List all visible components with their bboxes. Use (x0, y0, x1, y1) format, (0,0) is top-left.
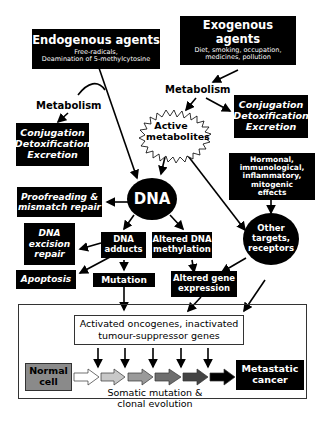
progression-arrow-6 (210, 369, 235, 385)
somatic-mutation-label: Somatic mutation & clonal evolution (100, 387, 210, 410)
progression-arrows (0, 0, 322, 421)
metastatic-cancer-box: Metastatic cancer (236, 360, 304, 390)
progression-arrow-2 (101, 369, 125, 385)
somatic-l1: Somatic mutation & (100, 387, 210, 398)
somatic-l2: clonal evolution (100, 398, 210, 409)
progression-arrow-1 (74, 369, 99, 385)
progression-arrow-5 (183, 369, 208, 385)
metastatic-l2: cancer (252, 375, 288, 386)
progression-arrow-3 (128, 369, 153, 385)
progression-arrow-4 (155, 369, 181, 385)
